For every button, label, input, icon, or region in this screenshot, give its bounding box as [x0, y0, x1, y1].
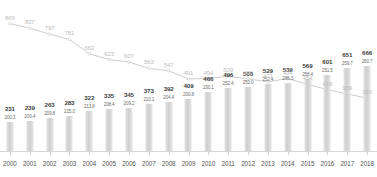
x-axis-label: 2008	[162, 160, 176, 167]
bar	[125, 108, 132, 152]
x-tick	[69, 152, 70, 155]
bar-secondary-label: 200.4	[24, 114, 35, 119]
line-value-label: 454	[303, 75, 313, 81]
x-tick	[10, 152, 11, 155]
x-axis-label: 2007	[142, 160, 156, 167]
x-axis-label: 2000	[3, 160, 17, 167]
line-value-label: 360	[362, 89, 372, 95]
bar-secondary-label: 266.3	[282, 76, 293, 81]
line-value-label: 623	[104, 51, 114, 57]
bar	[364, 66, 371, 152]
x-tick	[288, 152, 289, 155]
bar	[66, 116, 73, 152]
bar-secondary-label: 260.7	[362, 59, 373, 64]
bar-secondary-label: 208.4	[104, 102, 115, 107]
bar	[46, 118, 53, 152]
bar	[145, 104, 152, 152]
line-value-label: 494	[203, 70, 213, 76]
x-tick	[367, 152, 368, 155]
bar-secondary-label: 209.8	[44, 111, 55, 116]
data-column: 266.3539494	[278, 0, 298, 152]
x-tick	[308, 152, 309, 155]
bar-value-label: 651	[342, 51, 352, 58]
x-tick	[248, 152, 249, 155]
bar-value-label: 263	[45, 101, 55, 108]
line-value-label: 509	[223, 67, 233, 73]
line-value-label: 492	[243, 70, 253, 76]
data-column: 252.4529471	[258, 0, 278, 152]
x-axis-label: 2012	[241, 160, 255, 167]
bar-value-label: 409	[183, 82, 193, 89]
data-column: 251.5601419	[317, 0, 337, 152]
bar	[185, 99, 192, 152]
bar-secondary-label: 230.1	[203, 85, 214, 90]
bar	[165, 102, 172, 152]
bar	[26, 121, 33, 152]
x-axis-labels: 2000200120022003200420052006200720082009…	[0, 160, 377, 174]
line-value-label: 869	[5, 15, 15, 21]
x-axis-label: 2004	[82, 160, 96, 167]
data-column: 208.4335623	[99, 0, 119, 152]
line-value-label: 837	[25, 19, 35, 25]
bar	[344, 68, 351, 152]
data-column: 215.0283761	[60, 0, 80, 152]
data-column: 213.8322663	[79, 0, 99, 152]
data-column: 250.0508492	[238, 0, 258, 152]
x-tick	[347, 152, 348, 155]
x-tick	[268, 152, 269, 155]
line-value-label: 419	[323, 81, 333, 87]
data-column: 210.1373563	[139, 0, 159, 152]
x-tick	[30, 152, 31, 155]
x-tick	[208, 152, 209, 155]
line-value-label: 389	[342, 85, 352, 91]
bar	[245, 87, 252, 152]
data-column: 200.4239837	[20, 0, 40, 152]
x-tick	[129, 152, 130, 155]
bar-value-label: 373	[144, 87, 154, 94]
x-axis-label: 2011	[222, 160, 235, 167]
x-axis-label: 2017	[340, 160, 354, 167]
x-tick	[50, 152, 51, 155]
bar-value-label: 283	[64, 99, 74, 106]
bar-value-label: 231	[5, 105, 15, 112]
line-value-label: 761	[65, 30, 75, 36]
x-axis-label: 2005	[102, 160, 116, 167]
bar	[6, 122, 13, 152]
bar-value-label: 335	[104, 92, 114, 99]
bar	[225, 88, 232, 152]
x-tick	[327, 152, 328, 155]
x-axis-label: 2006	[122, 160, 136, 167]
bar-secondary-label: 200.3	[5, 115, 16, 120]
data-column: 258.4569454	[298, 0, 318, 152]
line-value-label: 663	[84, 45, 94, 51]
line-value-label: 491	[184, 70, 194, 76]
bar-value-label: 466	[203, 75, 213, 82]
bar-secondary-label: 209.2	[124, 101, 135, 106]
bar-value-label: 322	[84, 94, 94, 101]
data-column: 209.8263797	[40, 0, 60, 152]
line-value-label: 471	[263, 73, 273, 79]
x-axis-label: 2016	[321, 160, 335, 167]
plot-area: 200.3231869200.4239837209.8263797215.028…	[0, 0, 377, 152]
bar	[264, 84, 271, 152]
data-column: 260.7666360	[357, 0, 377, 152]
data-column: 204.4392547	[159, 0, 179, 152]
bar-value-label: 569	[303, 62, 313, 69]
x-axis-label: 2018	[360, 160, 374, 167]
bar-secondary-label: 252.4	[223, 81, 234, 86]
x-axis-label: 2010	[202, 160, 216, 167]
line-value-label: 547	[164, 62, 174, 68]
bar-value-label: 345	[124, 91, 134, 98]
x-tick	[169, 152, 170, 155]
x-axis-label: 2009	[182, 160, 196, 167]
x-tick	[89, 152, 90, 155]
x-axis-label: 2013	[261, 160, 275, 167]
bar-value-label: 666	[362, 49, 372, 56]
line-value-label: 797	[45, 25, 55, 31]
bar-secondary-label: 204.4	[163, 95, 174, 100]
line-value-label: 607	[124, 53, 134, 59]
x-axis-label: 2002	[43, 160, 57, 167]
bar-secondary-label: 251.5	[322, 68, 333, 73]
bar-secondary-label: 213.8	[84, 104, 95, 109]
line-value-label: 563	[144, 59, 154, 65]
